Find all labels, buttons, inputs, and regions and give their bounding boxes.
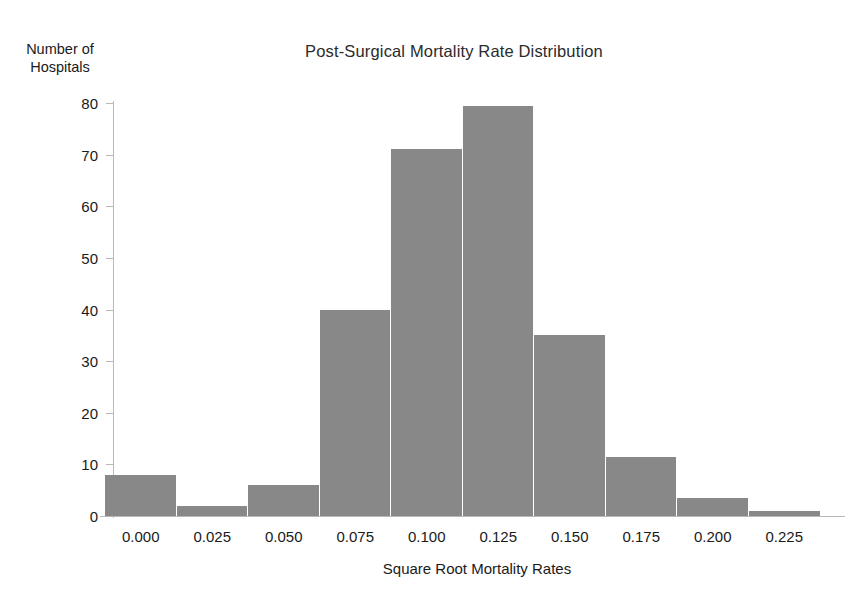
x-axis-title: Square Root Mortality Rates bbox=[114, 560, 840, 577]
y-axis-tick-label: 70 bbox=[34, 146, 98, 163]
y-axis-tick-label: 0 bbox=[34, 508, 98, 525]
x-axis-tick-labels: 0.0000.0250.0500.0750.1000.1250.1500.175… bbox=[105, 528, 820, 550]
x-axis-line bbox=[100, 516, 845, 517]
histogram-bar bbox=[105, 475, 177, 516]
y-axis-tick-label: 50 bbox=[34, 249, 98, 266]
histogram-bar bbox=[463, 106, 535, 516]
x-axis-tick-label: 0.000 bbox=[101, 528, 181, 545]
x-axis-tick-label: 0.125 bbox=[458, 528, 538, 545]
y-axis-tick-label: 60 bbox=[34, 198, 98, 215]
histogram-figure: Post-Surgical Mortality Rate Distributio… bbox=[0, 0, 856, 607]
x-axis-tick-label: 0.050 bbox=[244, 528, 324, 545]
y-axis-tick-label: 40 bbox=[34, 301, 98, 318]
y-axis-tick-label: 30 bbox=[34, 353, 98, 370]
y-axis-tick-label: 10 bbox=[34, 456, 98, 473]
x-axis-tick-label: 0.175 bbox=[601, 528, 681, 545]
histogram-bar bbox=[606, 457, 678, 516]
x-axis-tick-label: 0.075 bbox=[315, 528, 395, 545]
histogram-bar bbox=[534, 335, 606, 516]
x-axis-tick-label: 0.150 bbox=[530, 528, 610, 545]
histogram-bars bbox=[105, 103, 820, 516]
histogram-bar bbox=[320, 310, 392, 517]
y-axis-tick bbox=[106, 516, 113, 517]
y-axis-tick-label: 20 bbox=[34, 404, 98, 421]
x-axis-tick-label: 0.225 bbox=[744, 528, 824, 545]
chart-title: Post-Surgical Mortality Rate Distributio… bbox=[0, 42, 856, 61]
histogram-bar bbox=[248, 485, 320, 516]
histogram-bar bbox=[391, 149, 463, 516]
y-axis-tick-label: 80 bbox=[34, 95, 98, 112]
histogram-bar bbox=[677, 498, 749, 516]
x-axis-tick-label: 0.200 bbox=[673, 528, 753, 545]
histogram-bar bbox=[749, 511, 821, 516]
y-axis-tick-labels: 80706050403020100 bbox=[30, 0, 98, 607]
histogram-bar bbox=[177, 506, 249, 516]
x-axis-tick-label: 0.025 bbox=[172, 528, 252, 545]
x-axis-tick-label: 0.100 bbox=[387, 528, 467, 545]
